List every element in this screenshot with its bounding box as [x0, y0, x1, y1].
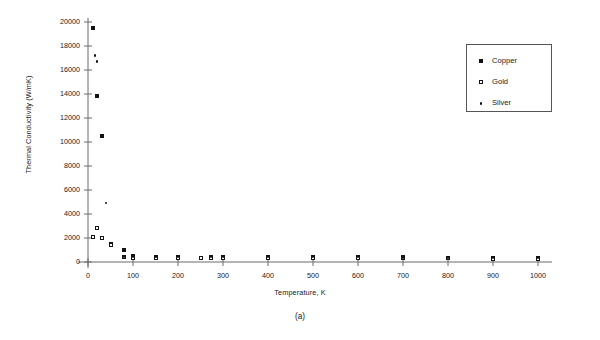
- filled-square-icon-glyph: [479, 59, 483, 63]
- legend-item-label: Copper: [492, 56, 517, 65]
- dot-icon-glyph: [480, 102, 483, 105]
- x-tick-label: 100: [108, 271, 158, 280]
- data-point-gold: [91, 235, 95, 239]
- legend-item-silver[interactable]: Silver: [474, 98, 511, 107]
- x-tick-label: 700: [378, 271, 428, 280]
- data-point-copper: [100, 134, 104, 138]
- x-tick-label: 1000: [513, 271, 563, 280]
- data-point-gold: [109, 243, 113, 247]
- legend-item-gold[interactable]: Gold: [474, 77, 508, 86]
- data-point-silver: [447, 256, 450, 259]
- data-point-gold: [100, 236, 104, 240]
- x-tick-label: 300: [198, 271, 248, 280]
- x-tick-label: 400: [243, 271, 293, 280]
- x-tick-label: 500: [288, 271, 338, 280]
- y-axis-title: Thermal Conductivity (W/mK): [24, 35, 33, 215]
- open-square-icon-glyph: [479, 80, 483, 84]
- data-point-gold: [95, 226, 99, 230]
- figure-caption: (a): [0, 312, 600, 321]
- open-square-icon: [474, 77, 488, 86]
- data-point-silver: [402, 256, 405, 259]
- data-point-gold: [199, 256, 203, 260]
- x-tick-label: 600: [333, 271, 383, 280]
- figure-a: 0200040006000800010000120001400016000180…: [0, 0, 600, 340]
- data-point-silver: [537, 256, 540, 259]
- x-axis-title: Temperature, K: [0, 288, 600, 297]
- x-tick-label: 0: [63, 271, 113, 280]
- x-tick-label: 200: [153, 271, 203, 280]
- data-point-copper: [95, 94, 99, 98]
- data-point-copper: [122, 248, 126, 252]
- y-tick-label: 0: [20, 257, 80, 266]
- legend-item-copper[interactable]: Copper: [474, 56, 517, 65]
- filled-square-icon: [474, 56, 488, 65]
- x-tick-label: 800: [423, 271, 473, 280]
- data-point-copper: [91, 26, 95, 30]
- legend-item-label: Silver: [492, 98, 511, 107]
- y-tick-label: 20000: [20, 17, 80, 26]
- legend-item-label: Gold: [492, 77, 508, 86]
- x-tick-label: 900: [468, 271, 518, 280]
- y-tick-label: 2000: [20, 233, 80, 242]
- dot-icon: [474, 98, 488, 107]
- data-point-silver: [154, 256, 157, 259]
